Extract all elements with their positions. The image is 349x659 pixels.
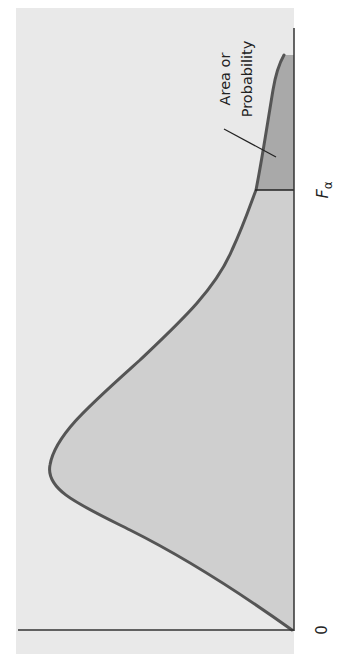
critical-value-label: Fα — [313, 181, 335, 198]
area-label-line2: Probability — [239, 40, 255, 117]
area-label-line1: Area or — [217, 53, 233, 106]
origin-label: 0 — [313, 625, 331, 635]
f-distribution-chart: 0 Fα Area or Probability — [0, 0, 349, 659]
